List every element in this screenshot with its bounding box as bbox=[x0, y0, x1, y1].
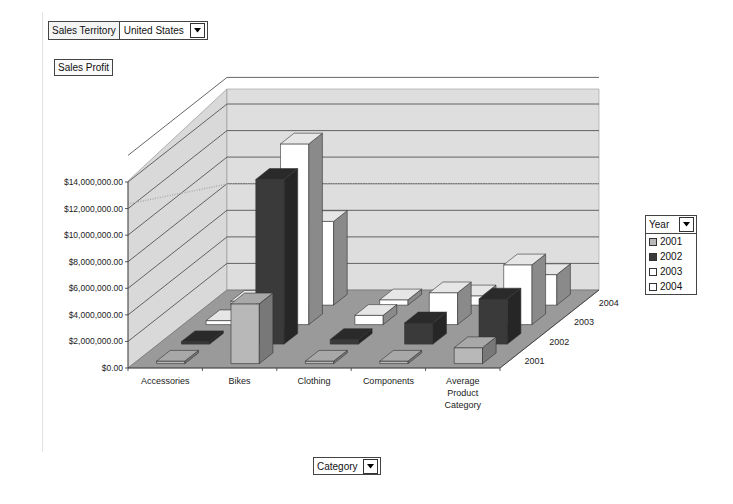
y-tick-label: $8,000,000.00 bbox=[69, 257, 124, 267]
category-field-label: Category bbox=[314, 461, 361, 472]
year-axis-label: 2001 bbox=[524, 356, 544, 366]
y-tick-label: $2,000,000.00 bbox=[69, 336, 124, 346]
sales-profit-3d-column-chart: $0.00$2,000,000.00$4,000,000.00$6,000,00… bbox=[0, 0, 733, 504]
year-axis-label: 2003 bbox=[574, 317, 594, 327]
legend-item-2003: 2003 bbox=[646, 264, 696, 279]
legend-swatch bbox=[649, 283, 657, 291]
legend-label: 2003 bbox=[660, 266, 682, 277]
legend-label: 2004 bbox=[660, 281, 682, 292]
y-tick-label: $12,000,000.00 bbox=[64, 204, 123, 214]
year-axis-label: 2004 bbox=[599, 298, 619, 308]
legend-swatch bbox=[649, 268, 657, 276]
category-field-button[interactable]: Category bbox=[313, 457, 381, 475]
category-label: Average bbox=[446, 376, 479, 386]
year-dropdown-button[interactable] bbox=[679, 217, 694, 232]
legend-label: 2001 bbox=[660, 236, 682, 247]
category-label: Components bbox=[363, 376, 415, 386]
category-label: Clothing bbox=[297, 376, 330, 386]
y-tick-label: $0.00 bbox=[102, 363, 124, 373]
category-label: Category bbox=[445, 400, 482, 410]
legend-swatch bbox=[649, 253, 657, 261]
bar-2002-4[interactable] bbox=[479, 288, 521, 344]
category-label: Bikes bbox=[229, 376, 252, 386]
year-axis-label: 2002 bbox=[549, 337, 569, 347]
category-dropdown-button[interactable] bbox=[363, 459, 378, 474]
category-label: Accessories bbox=[141, 376, 190, 386]
legend-item-2002: 2002 bbox=[646, 249, 696, 264]
year-legend-title: Year bbox=[649, 219, 669, 230]
y-tick-label: $14,000,000.00 bbox=[64, 177, 123, 187]
category-label: Product bbox=[447, 388, 479, 398]
bar-2001-1[interactable] bbox=[231, 293, 273, 364]
legend-swatch bbox=[649, 238, 657, 246]
year-field-header[interactable]: Year bbox=[646, 216, 696, 234]
legend-item-2004: 2004 bbox=[646, 279, 696, 294]
legend-item-2001: 2001 bbox=[646, 234, 696, 249]
year-legend: Year 2001200220032004 bbox=[645, 215, 697, 295]
chevron-down-icon bbox=[683, 222, 690, 227]
legend-label: 2002 bbox=[660, 251, 682, 262]
chevron-down-icon bbox=[367, 464, 374, 469]
y-tick-label: $6,000,000.00 bbox=[69, 283, 124, 293]
y-tick-label: $4,000,000.00 bbox=[69, 310, 124, 320]
y-tick-label: $10,000,000.00 bbox=[64, 230, 123, 240]
